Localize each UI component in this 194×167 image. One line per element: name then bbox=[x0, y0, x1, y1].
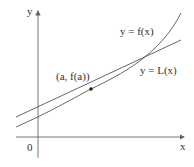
tangent-line bbox=[16, 40, 181, 117]
linearization-diagram: y x 0 y = f(x) y = L(x) (a, f(a)) bbox=[0, 0, 194, 167]
x-axis-label: x bbox=[180, 140, 186, 152]
point-label: (a, f(a)) bbox=[56, 70, 90, 83]
curve-label: y = f(x) bbox=[120, 25, 154, 38]
origin-label: 0 bbox=[27, 141, 33, 153]
tangent-point bbox=[89, 87, 93, 91]
y-axis-label: y bbox=[27, 5, 33, 17]
tangent-label: y = L(x) bbox=[140, 64, 177, 77]
